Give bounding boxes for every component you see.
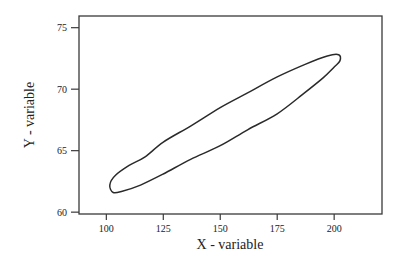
y-tick-label: 75 (57, 22, 67, 33)
plot-frame (79, 16, 382, 214)
contour-line (110, 54, 341, 193)
y-axis-label: Y - variable (22, 82, 37, 148)
x-axis-label: X - variable (197, 237, 264, 252)
x-tick-label: 200 (327, 223, 342, 234)
x-tick-label: 150 (213, 223, 228, 234)
x-tick-label: 125 (156, 223, 171, 234)
x-axis-ticks: 100125150175200 (99, 214, 342, 234)
y-axis-ticks: 60657075 (57, 22, 79, 217)
x-tick-label: 100 (99, 223, 114, 234)
chart: 100125150175200 60657075 X - variable Y … (0, 0, 402, 260)
x-tick-label: 175 (270, 223, 285, 234)
y-tick-label: 60 (57, 207, 67, 218)
y-tick-label: 65 (57, 145, 67, 156)
y-tick-label: 70 (57, 84, 67, 95)
